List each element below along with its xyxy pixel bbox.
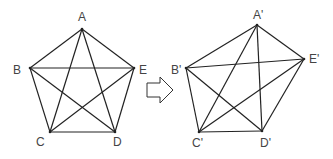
edge-line [186, 25, 257, 68]
vertex-label: C' [192, 136, 203, 150]
edge-line [262, 59, 304, 131]
edge-line [199, 25, 257, 132]
right-arrow-icon [147, 77, 173, 103]
edge-line [30, 68, 115, 132]
vertex-point [303, 58, 306, 61]
pentagon-transformation-diagram: ABCDE A'B'C'D'E' [0, 0, 333, 159]
vertex-point [114, 131, 117, 134]
vertex-label: E' [309, 52, 319, 66]
edge-line [50, 68, 134, 132]
vertex-point [198, 131, 201, 134]
vertex-label: B [13, 63, 21, 77]
right-pentagon: A'B'C'D'E' [171, 8, 319, 150]
vertex-point [185, 67, 188, 70]
edge-line [50, 29, 82, 132]
vertex-point [49, 131, 52, 134]
edge-line [257, 25, 262, 131]
vertex-label: A [78, 10, 86, 24]
vertex-label: C [36, 135, 45, 149]
vertex-point [81, 28, 84, 31]
vertex-label: D' [260, 136, 271, 150]
edge-line [199, 131, 262, 132]
edge-line [257, 25, 304, 59]
vertex-point [261, 130, 264, 133]
vertex-point [29, 67, 32, 70]
edge-line [186, 59, 304, 68]
vertex-point [256, 24, 259, 27]
vertex-label: E [139, 63, 147, 77]
edge-line [115, 68, 134, 132]
edge-line [30, 68, 50, 132]
vertex-label: A' [253, 8, 263, 22]
edge-line [30, 29, 82, 68]
vertex-point [133, 67, 136, 70]
left-pentagon: ABCDE [13, 10, 147, 149]
vertex-label: D [113, 135, 122, 149]
edge-line [82, 29, 134, 68]
edge-line [82, 29, 115, 132]
edge-line [199, 59, 304, 132]
vertex-label: B' [171, 63, 181, 77]
